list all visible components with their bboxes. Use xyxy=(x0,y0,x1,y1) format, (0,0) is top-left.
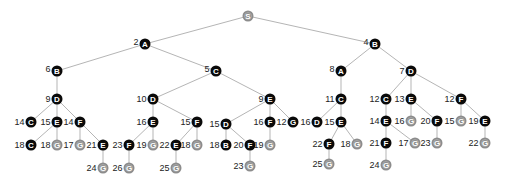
tree-edge xyxy=(153,71,216,99)
tree-node-g: G26 xyxy=(112,163,134,174)
tree-node-e: E13 xyxy=(394,94,416,105)
node-letter: B xyxy=(372,40,378,49)
node-letter: F xyxy=(268,118,273,127)
node-cost-label: 15 xyxy=(324,117,334,127)
node-letter: E xyxy=(267,95,273,104)
node-cost-label: 23 xyxy=(420,138,430,148)
node-cost-label: 18 xyxy=(40,140,50,150)
node-letter: G xyxy=(326,160,332,169)
node-cost-label: 16 xyxy=(300,117,310,127)
node-letter: G xyxy=(173,164,179,173)
tree-node-e: E15 xyxy=(40,117,62,128)
node-letter: G xyxy=(247,162,253,171)
node-letter: F xyxy=(248,141,253,150)
tree-node-e: E21 xyxy=(86,140,108,151)
node-cost-label: 10 xyxy=(136,94,146,104)
node-letter: B xyxy=(54,67,60,76)
node-cost-label: 24 xyxy=(369,160,379,170)
tree-node-g: G18 xyxy=(340,139,362,150)
node-cost-label: 2 xyxy=(133,37,138,47)
node-cost-label: 7 xyxy=(399,66,404,76)
node-cost-label: 11 xyxy=(325,94,334,104)
tree-node-g: G25 xyxy=(312,159,334,170)
node-cost-label: 8 xyxy=(329,64,334,74)
node-letter: G xyxy=(126,164,132,173)
node-cost-label: 9 xyxy=(45,94,50,104)
node-letter: F xyxy=(78,118,83,127)
node-letter: D xyxy=(223,120,229,129)
tree-edge xyxy=(375,44,411,71)
tree-node-g: G25 xyxy=(159,163,181,174)
node-cost-label: 12 xyxy=(369,94,379,104)
node-cost-label: 21 xyxy=(369,138,379,148)
node-cost-label: 23 xyxy=(112,140,122,150)
node-cost-label: 14 xyxy=(369,116,379,126)
node-cost-label: 19 xyxy=(253,140,263,150)
node-letter: G xyxy=(482,139,488,148)
node-letter: D xyxy=(408,67,414,76)
node-cost-label: 19 xyxy=(136,140,146,150)
node-letter: B xyxy=(223,141,229,150)
node-cost-label: 20 xyxy=(420,116,430,126)
tree-node-f: F15 xyxy=(180,117,202,128)
node-letter: G xyxy=(412,139,418,148)
node-letter: C xyxy=(338,95,344,104)
node-cost-label: 17 xyxy=(398,138,408,148)
tree-node-b: B6 xyxy=(45,64,62,77)
node-letter: E xyxy=(100,141,106,150)
tree-node-e: E22 xyxy=(159,140,181,151)
tree-edge xyxy=(145,16,248,44)
node-cost-label: 24 xyxy=(86,163,96,173)
node-letter: D xyxy=(314,118,320,127)
tree-node-f: F21 xyxy=(369,138,391,149)
tree-nodes: SA2B4B6C5A8D7D9D10E9C11C12E13F12C14E15F1… xyxy=(14,11,490,174)
tree-node-f: F22 xyxy=(312,139,334,150)
node-cost-label: 15 xyxy=(209,119,219,129)
node-letter: C xyxy=(28,118,34,127)
tree-node-g: G12 xyxy=(276,117,298,128)
tree-node-e: E15 xyxy=(324,117,346,128)
tree-node-g: G16 xyxy=(394,116,416,127)
node-letter: E xyxy=(54,118,60,127)
node-letter: G xyxy=(267,141,273,150)
node-cost-label: 16 xyxy=(253,117,263,127)
node-cost-label: 22 xyxy=(468,138,478,148)
tree-node-b: B18 xyxy=(209,140,231,151)
tree-node-g: G19 xyxy=(136,140,158,151)
node-letter: E xyxy=(338,118,344,127)
node-cost-label: 18 xyxy=(340,139,350,149)
node-letter: G xyxy=(290,118,296,127)
node-letter: E xyxy=(408,95,414,104)
node-cost-label: 25 xyxy=(159,163,169,173)
tree-node-a: A8 xyxy=(329,64,346,77)
node-cost-label: 18 xyxy=(209,140,219,150)
node-letter: E xyxy=(383,117,389,126)
node-cost-label: 22 xyxy=(159,140,169,150)
node-cost-label: 25 xyxy=(312,159,322,169)
tree-node-d: D10 xyxy=(136,94,158,105)
tree-node-d: D9 xyxy=(45,94,62,105)
node-cost-label: 21 xyxy=(86,140,96,150)
node-letter: G xyxy=(458,117,464,126)
tree-node-f: F20 xyxy=(420,116,442,127)
tree-node-e: E9 xyxy=(258,94,275,105)
node-letter: G xyxy=(434,139,440,148)
node-letter: S xyxy=(245,12,251,21)
node-cost-label: 18 xyxy=(14,140,24,150)
node-letter: E xyxy=(173,141,179,150)
node-cost-label: 13 xyxy=(394,94,404,104)
node-cost-label: 22 xyxy=(312,139,322,149)
tree-node-g: G18 xyxy=(40,140,62,151)
tree-node-g: G15 xyxy=(444,116,466,127)
node-letter: F xyxy=(127,141,132,150)
node-cost-label: 17 xyxy=(63,140,73,150)
node-letter: G xyxy=(77,141,83,150)
tree-node-g: G22 xyxy=(468,138,490,149)
node-cost-label: 16 xyxy=(394,116,404,126)
tree-edge xyxy=(341,44,375,71)
tree-node-c: C18 xyxy=(14,140,36,151)
node-letter: G xyxy=(54,141,60,150)
tree-node-g: G23 xyxy=(233,161,255,172)
tree-node-g: G24 xyxy=(86,163,108,174)
tree-node-a: A2 xyxy=(133,37,150,50)
